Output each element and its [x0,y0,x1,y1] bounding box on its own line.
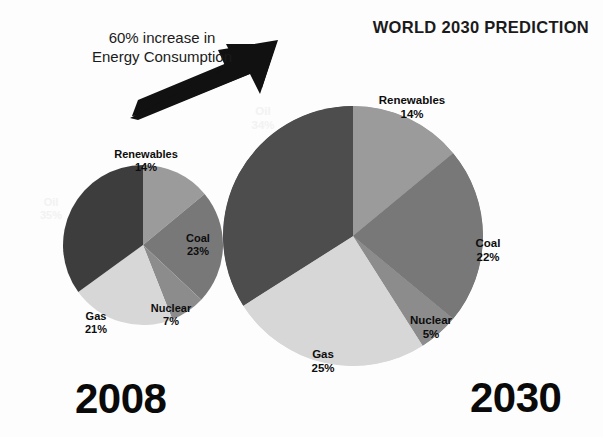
annotation-line-1: 60% increase in [109,29,216,46]
annotation-text: 60% increase in Energy Consumption [66,28,258,66]
year-label-2030: 2030 [470,374,561,422]
infographic-canvas: WORLD 2030 PREDICTION 60% increase in En… [0,0,603,437]
year-label-2008: 2008 [75,375,166,423]
annotation-line-2: Energy Consumption [66,47,258,66]
page-title: WORLD 2030 PREDICTION [373,18,589,37]
